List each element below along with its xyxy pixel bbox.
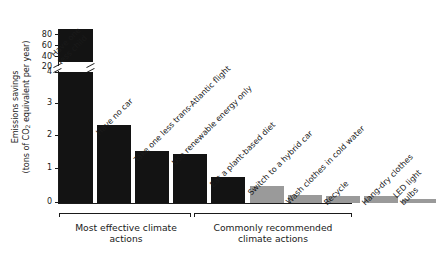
y-tick-lower-4: 4 [36, 68, 52, 76]
plot-area-upper [59, 29, 352, 62]
y-axis-title-line1: Emissions savings [10, 71, 20, 144]
group-label-most-effective: Most effective climate actions [52, 222, 200, 244]
bar-have-no-car [97, 125, 131, 203]
x-axis-line [58, 203, 352, 204]
bar-have-one-less-child [59, 72, 93, 203]
y-tick-lower-3: 3 [36, 99, 52, 107]
y-tick-lower-1: 1 [36, 164, 52, 172]
y-tick-upper-80: 80 [36, 31, 52, 39]
y-tick-upper-60: 60 [36, 42, 52, 50]
y-axis-title-line2: (tons of CO2 equivalent per year) [21, 12, 33, 202]
y-axis-title: Emissions savings (tons of CO2 equivalen… [0, 0, 34, 210]
y-tick-lower-2: 2 [36, 131, 52, 139]
y-tick-lower-0: 0 [36, 198, 52, 206]
group-label-commonly-recommended: Commonly recommended climate actions [192, 222, 354, 244]
